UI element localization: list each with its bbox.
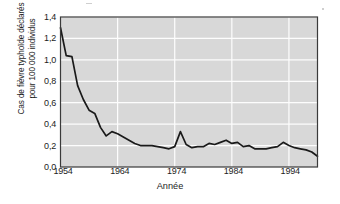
scan-speck xyxy=(322,8,324,10)
scan-speck xyxy=(86,3,92,4)
plot-area xyxy=(0,0,340,204)
plot-background xyxy=(61,17,318,167)
chart-figure: Cas de fièvre typhoïde déclarés pour 100… xyxy=(0,0,340,204)
